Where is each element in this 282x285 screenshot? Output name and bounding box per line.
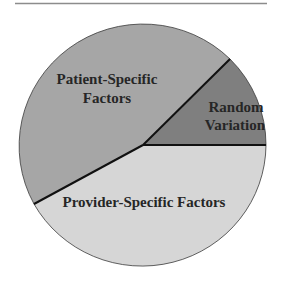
label-patient-line2: Factors (83, 90, 131, 106)
label-patient-line1: Patient-Specific (57, 71, 158, 87)
pie-chart: Patient-Specific Factors Random Variatio… (0, 0, 282, 285)
label-provider: Provider-Specific Factors (63, 194, 226, 210)
label-random-line1: Random (208, 99, 264, 115)
label-random-line2: Variation (205, 117, 266, 133)
